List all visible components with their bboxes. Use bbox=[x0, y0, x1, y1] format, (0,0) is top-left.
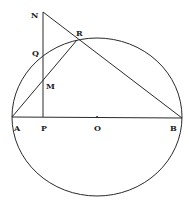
label-m: M bbox=[46, 81, 55, 91]
geometry-diagram: N R Q M A P O B bbox=[0, 0, 189, 209]
label-o: O bbox=[94, 123, 101, 133]
label-b: B bbox=[170, 123, 177, 133]
label-r: R bbox=[76, 28, 83, 38]
label-q: Q bbox=[32, 48, 39, 58]
center-dot bbox=[96, 116, 98, 118]
label-a: A bbox=[13, 123, 21, 133]
label-p: P bbox=[41, 123, 47, 133]
label-n: N bbox=[31, 10, 38, 20]
segment-ar bbox=[12, 40, 77, 117]
